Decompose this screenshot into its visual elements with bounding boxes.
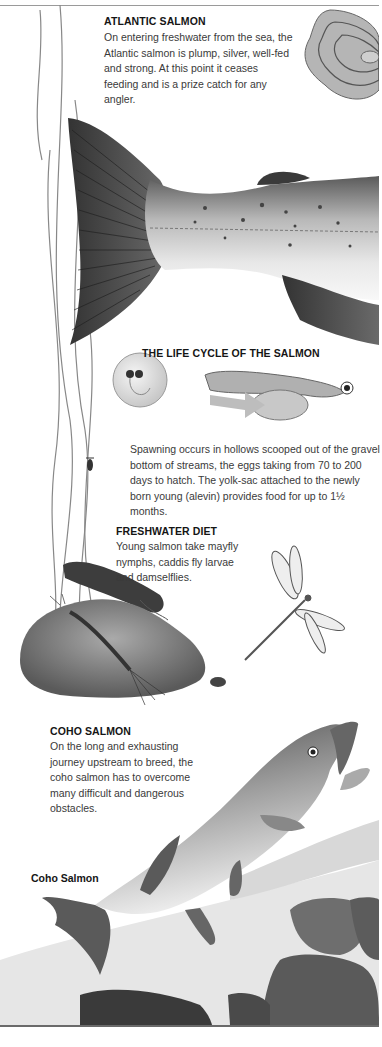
atlantic-salmon-text: On entering freshwater from the sea, the… [104, 30, 294, 108]
coho-salmon-text: On the long and exhausting journey upstr… [50, 739, 210, 817]
life-cycle-text: Spawning occurs in hollows scooped out o… [130, 442, 382, 520]
atlantic-salmon-illustration [68, 118, 379, 345]
salmon-egg-illustration [113, 353, 167, 407]
alevin-illustration [205, 371, 353, 420]
salmon-scale-illustration [305, 10, 379, 99]
life-cycle-heading: THE LIFE CYCLE OF THE SALMON [142, 347, 320, 359]
atlantic-salmon-heading: ATLANTIC SALMON [104, 15, 206, 27]
bottom-rule [0, 1025, 379, 1027]
freshwater-diet-heading: FRESHWATER DIET [116, 525, 217, 537]
freshwater-diet-text: Young salmon take mayfly nymphs, caddis … [116, 539, 246, 586]
damselfly-illustration [245, 546, 346, 660]
coho-salmon-heading: COHO SALMON [50, 725, 131, 737]
stone-illustration [20, 599, 226, 698]
coho-salmon-caption: Coho Salmon [31, 872, 99, 884]
